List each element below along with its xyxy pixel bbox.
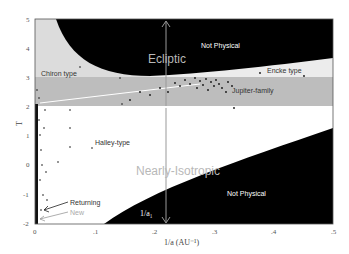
svg-text:0: 0 bbox=[26, 161, 30, 169]
label-jupiter-family: Jupiter-family bbox=[232, 87, 274, 95]
svg-text:.1: .1 bbox=[93, 228, 99, 236]
label-halley: Halley-type bbox=[95, 139, 130, 147]
svg-text:0: 0 bbox=[33, 228, 37, 236]
y-axis: 5 4 3 2 1 0 -1 -2 bbox=[23, 16, 30, 228]
svg-text:1: 1 bbox=[26, 132, 30, 140]
svg-text:5: 5 bbox=[26, 16, 30, 24]
svg-text:-2: -2 bbox=[23, 220, 29, 228]
svg-text:.5: .5 bbox=[331, 228, 337, 236]
label-chiron: Chiron type bbox=[41, 70, 77, 78]
y-axis-label: T bbox=[15, 121, 24, 126]
label-not-physical-bottom: Not Physical bbox=[227, 190, 266, 198]
svg-text:3: 3 bbox=[26, 74, 30, 82]
label-new: New bbox=[70, 209, 85, 216]
tisserand-plot: Ecliptic Not Physical Chiron type Encke … bbox=[0, 0, 349, 254]
label-returning: Returning bbox=[70, 199, 100, 207]
label-nearly-isotropic: Nearly-Isotropic bbox=[136, 164, 220, 178]
x-axis-label: 1/a (AU⁻¹) bbox=[164, 238, 199, 247]
svg-text:.4: .4 bbox=[271, 228, 277, 236]
svg-text:-1: -1 bbox=[23, 191, 29, 199]
svg-text:2: 2 bbox=[26, 103, 30, 111]
svg-text:4: 4 bbox=[26, 45, 30, 53]
x-axis: 0 .1 .2 .3 .4 .5 bbox=[33, 228, 337, 236]
jupiter-family-band bbox=[35, 77, 333, 106]
label-encke: Encke type bbox=[267, 67, 302, 75]
label-a1: 1/a₁ bbox=[140, 209, 153, 218]
svg-text:.2: .2 bbox=[152, 228, 158, 236]
label-not-physical-top: Not Physical bbox=[201, 42, 240, 50]
label-ecliptic: Ecliptic bbox=[148, 52, 186, 66]
svg-text:.3: .3 bbox=[212, 228, 218, 236]
